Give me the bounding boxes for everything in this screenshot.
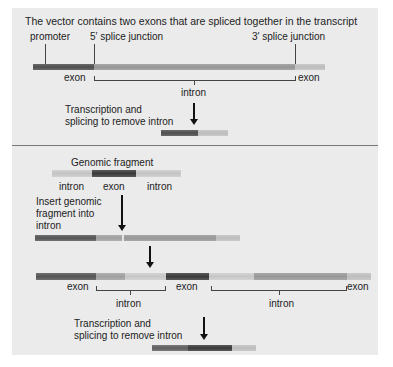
- intron-1-bracket-right: [165, 286, 166, 291]
- bottom-step-line2: splicing to remove intron: [74, 330, 182, 342]
- down-arrow-icon: [193, 103, 195, 120]
- insert-bar-exon: [35, 235, 96, 241]
- construct-bar: [36, 273, 371, 280]
- bottom-step-line1: Transcription and: [74, 318, 151, 330]
- intron-1-bracket-tick: [130, 290, 131, 295]
- final-transcript-bar: [152, 345, 256, 351]
- construct-label-exon-3: exon: [347, 281, 369, 293]
- five-prime-junction-label: 5′ splice junction: [90, 31, 163, 43]
- construct-exon-3: [347, 273, 371, 280]
- vector-with-insert-bar: [35, 235, 240, 241]
- insert-arrow-icon: [121, 195, 123, 226]
- section-divider: [12, 145, 378, 146]
- intron-bracket-left: [94, 76, 95, 81]
- three-prime-junction-label: 3′ splice junction: [252, 31, 325, 43]
- exon-right-label: exon: [298, 72, 320, 84]
- construct-label-intron-2: intron: [269, 298, 294, 310]
- insert-step-line1: Insert genomic: [36, 196, 102, 208]
- insert-bar-exon-2: [216, 235, 240, 241]
- fragment-label-exon: exon: [103, 181, 125, 193]
- down-arrow-icon-3: [203, 317, 205, 335]
- five-prime-pointer: [94, 44, 95, 64]
- intron-1-bracket-left: [96, 286, 97, 291]
- construct-exon-1: [36, 273, 96, 280]
- construct-exon-2: [166, 273, 209, 280]
- insert-bar-intron-b: [124, 235, 216, 241]
- construct-intron-1b: [125, 273, 166, 280]
- fragment-intron-2: [136, 170, 181, 177]
- promoter-pointer: [45, 44, 46, 64]
- genomic-fragment-title: Genomic fragment: [71, 157, 153, 169]
- top-title: The vector contains two exons that are s…: [25, 15, 357, 27]
- intron-1-bracket: [96, 290, 166, 291]
- intron-label: intron: [181, 87, 206, 99]
- promoter-label: promoter: [30, 31, 70, 43]
- spliced-exon-1: [161, 130, 198, 136]
- three-prime-pointer: [295, 44, 296, 64]
- exon-left-label: exon: [64, 72, 86, 84]
- intron-bracket-right: [295, 76, 296, 81]
- spliced-exon-2: [198, 130, 228, 136]
- final-exon-1: [152, 345, 188, 351]
- intron-bracket-tick: [194, 80, 195, 85]
- fragment-label-intron-1: intron: [59, 181, 84, 193]
- insert-step-line2: fragment into: [36, 208, 94, 220]
- construct-intron-1a: [96, 273, 125, 280]
- intron-2-bracket-tick: [279, 290, 280, 295]
- final-exon-2: [188, 345, 232, 351]
- construct-intron-2b: [254, 273, 347, 280]
- spliced-transcript-bar: [161, 130, 228, 136]
- fragment-label-intron-2: intron: [147, 181, 172, 193]
- vector-exon-2: [295, 64, 325, 70]
- final-exon-3: [232, 345, 256, 351]
- vector-exon-1: [33, 64, 94, 70]
- fragment-intron-1: [52, 170, 92, 177]
- top-step-line1: Transcription and: [65, 104, 142, 116]
- top-step-line2: splicing to remove intron: [65, 116, 173, 128]
- construct-label-exon-1: exon: [67, 281, 89, 293]
- construct-label-intron-1: intron: [116, 298, 141, 310]
- insert-step-line3: intron: [36, 220, 61, 232]
- fragment-exon: [92, 170, 136, 177]
- vector-bar: [33, 64, 325, 70]
- down-arrow-icon-2: [149, 246, 151, 263]
- vector-intron: [94, 64, 295, 70]
- construct-intron-2a: [209, 273, 254, 280]
- genomic-fragment-bar: [52, 170, 181, 177]
- insert-bar-intron-a: [96, 235, 122, 241]
- intron-2-bracket-left: [211, 286, 212, 291]
- construct-label-exon-2: exon: [176, 281, 198, 293]
